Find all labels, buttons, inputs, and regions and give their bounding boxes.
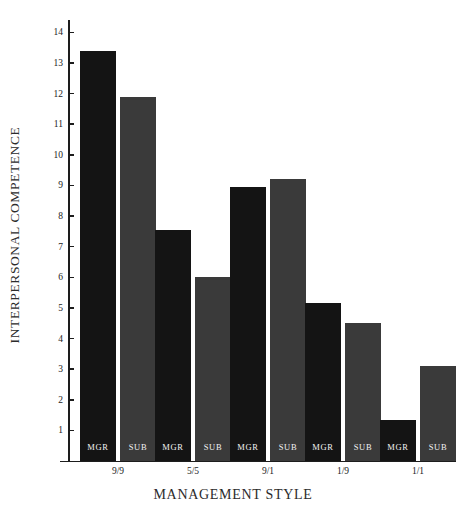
plot-area: 1413121110987654321 MGRSUBMGRSUBMGRSUBMG…	[68, 20, 458, 462]
bar-series-label: MGR	[237, 442, 258, 452]
y-axis-tick-label: 8	[58, 211, 63, 221]
y-axis-tick-label: 3	[58, 364, 63, 374]
y-axis-tick-label: 2	[58, 395, 63, 405]
y-axis-tick-label: 10	[54, 150, 64, 160]
y-axis-tick-label: 9	[58, 180, 63, 190]
bar-5-5-mgr: MGR	[155, 230, 191, 461]
y-axis-tick-label: 4	[58, 334, 63, 344]
x-axis-tick-label: 1/1	[380, 466, 456, 476]
bar-chart: INTERPERSONAL COMPETENCE 141312111098765…	[0, 0, 466, 519]
bar-9-9-mgr: MGR	[80, 51, 116, 461]
x-axis-tick-label: 5/5	[155, 466, 231, 476]
bar-9-9-sub: SUB	[120, 97, 156, 461]
bar-1-9-mgr: MGR	[305, 303, 341, 461]
x-axis-title: MANAGEMENT STYLE	[0, 487, 466, 503]
y-axis-tick-label: 1	[58, 425, 63, 435]
bar-series-label: MGR	[87, 442, 108, 452]
x-axis-tick-label: 9/9	[80, 466, 156, 476]
bar-series-label: MGR	[387, 442, 408, 452]
bar-5-5-sub: SUB	[195, 277, 231, 461]
bars-group: MGRSUBMGRSUBMGRSUBMGRSUBMGRSUB	[68, 20, 458, 461]
x-axis-tick-label: 9/1	[230, 466, 306, 476]
y-axis-tick-label: 6	[58, 272, 63, 282]
y-axis-title-text: INTERPERSONAL COMPETENCE	[7, 127, 23, 344]
bar-9-1-mgr: MGR	[230, 187, 266, 461]
y-axis-tick-label: 5	[58, 303, 63, 313]
bar-series-label: SUB	[429, 442, 448, 452]
bar-series-label: SUB	[204, 442, 223, 452]
y-axis-tick-label: 13	[54, 58, 64, 68]
bar-1-9-sub: SUB	[345, 323, 381, 461]
x-axis-tick-label: 1/9	[305, 466, 381, 476]
bar-series-label: SUB	[354, 442, 373, 452]
bar-1-1-mgr: MGR	[380, 420, 416, 461]
y-axis-tick-label: 11	[54, 119, 63, 129]
bar-9-1-sub: SUB	[270, 179, 306, 461]
bar-series-label: SUB	[279, 442, 298, 452]
y-axis-tick-label: 14	[54, 27, 64, 37]
y-axis-tick-label: 12	[54, 89, 64, 99]
bar-series-label: MGR	[312, 442, 333, 452]
y-axis-tick-label: 7	[58, 242, 63, 252]
y-axis-title: INTERPERSONAL COMPETENCE	[0, 0, 30, 470]
bar-1-1-sub: SUB	[420, 366, 456, 461]
bar-series-label: MGR	[162, 442, 183, 452]
bar-series-label: SUB	[129, 442, 148, 452]
